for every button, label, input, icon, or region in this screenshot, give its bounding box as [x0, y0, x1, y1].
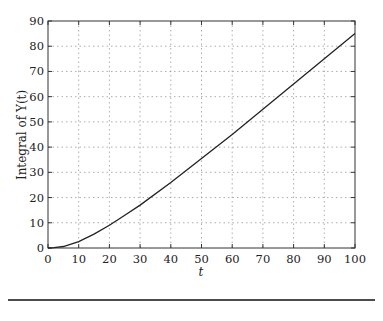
x-axis-label: t: [199, 265, 204, 279]
axis-ticks: 0102030405060708090100010203040506070809…: [29, 14, 366, 266]
y-tick-label: 70: [29, 64, 44, 78]
y-tick-label: 0: [37, 241, 44, 255]
y-tick-label: 30: [29, 165, 44, 179]
y-tick-label: 80: [29, 39, 44, 53]
x-tick-label: 90: [317, 252, 332, 266]
x-tick-label: 40: [163, 252, 178, 266]
x-tick-label: 50: [194, 252, 209, 266]
x-tick-label: 60: [225, 252, 240, 266]
x-tick-label: 10: [71, 252, 86, 266]
x-tick-label: 30: [133, 252, 148, 266]
x-tick-label: 20: [102, 252, 117, 266]
y-axis-label: Integral of Y(t): [15, 90, 29, 180]
x-tick-label: 80: [286, 252, 301, 266]
y-tick-label: 40: [29, 140, 44, 154]
line-chart: 0102030405060708090100010203040506070809…: [0, 0, 383, 321]
y-tick-label: 20: [29, 191, 44, 205]
grid-lines: [48, 21, 355, 248]
x-tick-label: 0: [44, 252, 51, 266]
y-tick-label: 10: [29, 216, 44, 230]
x-tick-label: 70: [256, 252, 271, 266]
y-tick-label: 50: [29, 115, 44, 129]
y-tick-label: 90: [29, 14, 44, 28]
x-tick-label: 100: [344, 252, 366, 266]
y-tick-label: 60: [29, 90, 44, 104]
